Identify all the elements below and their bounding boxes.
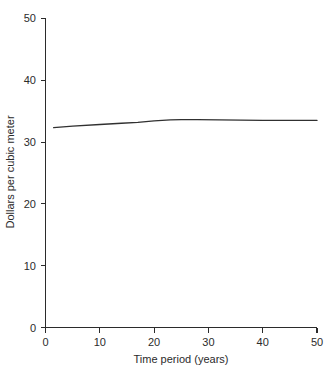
data-series-line xyxy=(54,120,317,128)
y-tick-label-40: 40 xyxy=(24,74,36,86)
x-tick-label-20: 20 xyxy=(148,336,160,348)
x-tick-label-0: 0 xyxy=(42,336,48,348)
chart-canvas: 50 40 30 20 10 0 0 10 20 30 40 50 Time p… xyxy=(0,0,330,372)
y-tick-label-50: 50 xyxy=(24,12,36,24)
y-tick-label-10: 10 xyxy=(24,260,36,272)
x-axis-title: Time period (years) xyxy=(134,353,229,365)
x-tick-label-40: 40 xyxy=(257,336,269,348)
y-tick-label-0: 0 xyxy=(30,322,36,334)
x-tick-label-10: 10 xyxy=(94,336,106,348)
x-tick-label-30: 30 xyxy=(202,336,214,348)
y-tick-label-20: 20 xyxy=(24,198,36,210)
y-tick-label-30: 30 xyxy=(24,136,36,148)
y-axis-title: Dollars per cubic meter xyxy=(4,115,16,228)
line-chart-figure: 50 40 30 20 10 0 0 10 20 30 40 50 Time p… xyxy=(0,0,330,372)
x-tick-label-50: 50 xyxy=(311,336,323,348)
